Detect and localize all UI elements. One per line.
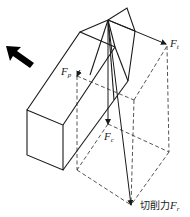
force-parallelepiped	[77, 46, 169, 205]
label-fc: Fc	[103, 130, 115, 144]
tool-shank-block	[27, 32, 128, 170]
force-ft-arrow	[108, 20, 166, 44]
force-fp-arrow	[77, 70, 80, 76]
label-fr: 切削力Fr	[140, 199, 180, 213]
label-ft: Ft	[169, 37, 180, 51]
cutting-force-diagram: Ft Fp Fc 切削力Fr	[0, 0, 190, 217]
label-fp: Fp	[60, 65, 72, 79]
force-fr-arrow	[108, 20, 131, 205]
feed-direction-arrow-icon	[6, 46, 34, 68]
